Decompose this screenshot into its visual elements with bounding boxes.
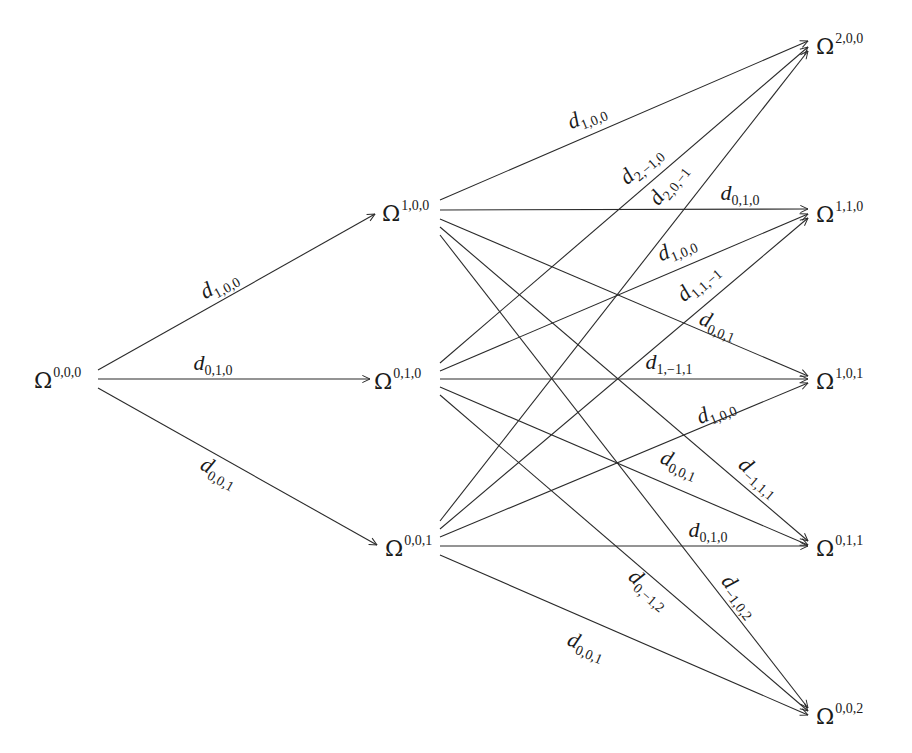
edge-n001-to-n200 — [440, 51, 808, 521]
node-n001: Ω0,0,1 — [385, 533, 432, 561]
edge-label-subscript: 1,1,−1 — [688, 266, 725, 301]
svg-text:d0,0,1: d0,0,1 — [695, 305, 742, 346]
edge-label: d0,1,0 — [689, 517, 728, 545]
node-superscript: 0,1,1 — [835, 533, 863, 548]
node-superscript: 1,0,1 — [835, 366, 863, 381]
node-n200: Ω2,0,0 — [816, 31, 863, 59]
node-superscript: 1,1,0 — [835, 199, 863, 214]
edge-label: d0,−1,2 — [622, 564, 676, 616]
svg-text:d0,1,0: d0,1,0 — [689, 517, 728, 545]
svg-text:d0,0,1: d0,0,1 — [656, 444, 703, 485]
node-symbol: Ω — [816, 34, 834, 59]
svg-text:d1,0,0: d1,0,0 — [563, 96, 610, 137]
edge-labels-layer: d1,0,0d0,1,0d0,0,1d1,0,0d0,1,0d0,0,1d−1,… — [194, 96, 786, 667]
nodes-layer: Ω0,0,0Ω1,0,0Ω0,1,0Ω0,0,1Ω2,0,0Ω1,1,0Ω1,0… — [34, 31, 863, 729]
edge-label-subscript: 2,0,−1 — [660, 165, 694, 203]
edge-n010-to-n002 — [440, 395, 808, 711]
node-symbol: Ω — [816, 202, 834, 227]
node-n011: Ω0,1,1 — [816, 533, 863, 561]
svg-text:d1,1,−1: d1,1,−1 — [671, 257, 725, 309]
edge-label: d1,0,0 — [195, 263, 243, 306]
node-n000: Ω0,0,0 — [34, 365, 81, 393]
edge-label-subscript: 0,0,1 — [666, 460, 698, 485]
node-superscript: 0,1,0 — [393, 366, 421, 381]
edge-label-subscript: 0,1,0 — [205, 363, 233, 378]
node-symbol: Ω — [382, 201, 400, 226]
edge-n010-to-n011 — [440, 387, 808, 545]
svg-text:d0,0,1: d0,0,1 — [563, 626, 610, 667]
svg-text:d−1,0,2: d−1,0,2 — [714, 569, 765, 623]
node-superscript: 0,0,1 — [404, 533, 432, 548]
node-symbol: Ω — [385, 536, 403, 561]
edges-layer — [98, 41, 808, 715]
edge-label: d1,−1,1 — [646, 349, 693, 377]
node-symbol: Ω — [374, 369, 392, 394]
edge-label: d2,−1,0 — [614, 140, 668, 192]
svg-text:d0,0,1: d0,0,1 — [195, 451, 243, 494]
svg-text:d0,1,0: d0,1,0 — [194, 350, 233, 378]
lattice-diagram: d1,0,0d0,1,0d0,0,1d1,0,0d0,1,0d0,0,1d−1,… — [0, 0, 912, 753]
edge-n100-to-n011 — [440, 227, 808, 541]
edge-label-subscript: 1,−1,1 — [657, 362, 693, 377]
node-superscript: 1,0,0 — [401, 198, 429, 213]
node-superscript: 0,0,0 — [53, 365, 81, 380]
edge-n100-to-n110 — [440, 209, 808, 210]
edge-label: d0,0,1 — [695, 305, 742, 346]
edge-label-subscript: 0,0,1 — [205, 468, 237, 495]
edge-label-subscript: 0,1,0 — [700, 530, 728, 545]
edge-label-subscript: 1,0,0 — [668, 240, 700, 265]
edge-label: d0,0,1 — [195, 451, 243, 494]
svg-text:d1,0,0: d1,0,0 — [195, 263, 243, 306]
edge-label-subscript: 0,0,1 — [705, 321, 737, 345]
svg-text:d0,1,0: d0,1,0 — [721, 180, 760, 208]
edge-label: d0,1,0 — [194, 350, 233, 378]
edge-n000-to-n100 — [98, 214, 375, 370]
node-superscript: 2,0,0 — [835, 31, 863, 46]
node-symbol: Ω — [34, 368, 52, 393]
svg-text:d−1,1,1: d−1,1,1 — [732, 452, 786, 504]
edge-label: d0,1,0 — [721, 180, 760, 208]
edge-label: d1,1,−1 — [671, 257, 725, 309]
node-n101: Ω1,0,1 — [816, 366, 863, 394]
node-symbol: Ω — [816, 536, 834, 561]
edge-n100-to-n101 — [440, 219, 808, 376]
edge-label: d1,0,0 — [563, 96, 610, 137]
edge-label-subscript: 2,−1,0 — [631, 149, 668, 184]
edge-label: d0,0,1 — [563, 626, 610, 667]
node-symbol: Ω — [816, 704, 834, 729]
node-n010: Ω0,1,0 — [374, 366, 421, 394]
edge-label-subscript: −1,1,1 — [740, 469, 777, 504]
edge-label-subscript: 0,0,1 — [573, 642, 605, 667]
svg-text:d1,0,0: d1,0,0 — [692, 391, 739, 432]
node-n100: Ω1,0,0 — [382, 198, 429, 226]
node-superscript: 0,0,2 — [835, 701, 863, 716]
node-n002: Ω0,0,2 — [816, 701, 863, 729]
svg-text:d0,−1,2: d0,−1,2 — [622, 564, 676, 616]
edge-label: d0,0,1 — [656, 444, 703, 485]
edge-n001-to-n002 — [440, 555, 808, 715]
edge-label-subscript: 0,1,0 — [732, 193, 760, 208]
edge-label: d−1,1,1 — [732, 452, 786, 504]
edge-n000-to-n001 — [98, 388, 377, 545]
edge-label: d1,0,0 — [692, 391, 739, 432]
node-n110: Ω1,1,0 — [816, 199, 863, 227]
node-symbol: Ω — [816, 369, 834, 394]
svg-text:d1,−1,1: d1,−1,1 — [646, 349, 693, 377]
svg-text:d2,−1,0: d2,−1,0 — [614, 140, 668, 192]
edge-label: d−1,0,2 — [714, 569, 765, 623]
edge-label-subscript: 1,0,0 — [707, 403, 739, 427]
edge-n010-to-n110 — [440, 214, 808, 371]
